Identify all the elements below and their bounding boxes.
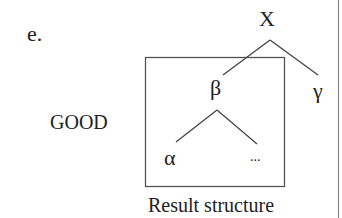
caption: Result structure [148,195,274,215]
edge-beta-ellipsis [217,110,257,144]
tree-node-alpha: α [164,147,176,169]
edge-beta-alpha [176,110,217,142]
example-label: e. [27,23,42,45]
tree-node-ellipsis: ... [250,150,261,164]
judgment-label: GOOD [50,112,108,132]
tree-node-root: X [259,8,275,30]
tree-node-gamma: γ [313,80,323,102]
tree-node-beta: β [210,77,221,99]
tree-lines [0,0,342,218]
